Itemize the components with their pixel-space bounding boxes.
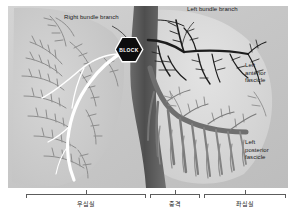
- bracket-tick-right: [199, 194, 200, 198]
- bracket-bar: [204, 194, 286, 195]
- diagram-stage: BLOCK Right bundle branch Left bundle br…: [0, 0, 296, 222]
- bracket-left-ventricle: 좌심실: [204, 190, 286, 200]
- bracket-bar: [150, 194, 200, 195]
- bracket-tick-center: [175, 190, 176, 194]
- bracket-caption: 중격: [150, 199, 200, 208]
- bracket-tick-center: [86, 190, 87, 194]
- label-left-bundle-branch: Left bundle branch: [187, 6, 238, 14]
- bracket-right-ventricle: 우심실: [26, 190, 146, 200]
- label-left-posterior-fascicle: Left posterior fascicle: [245, 139, 269, 162]
- bracket-tick-left: [150, 194, 151, 198]
- bracket-bar: [26, 194, 146, 195]
- bracket-septum: 중격: [150, 190, 200, 200]
- label-right-bundle-branch: Right bundle branch: [64, 14, 119, 22]
- bracket-tick-center: [245, 190, 246, 194]
- label-left-anterior-fascicle: Left anterior fascicle: [245, 62, 266, 85]
- bracket-caption: 좌심실: [204, 199, 286, 208]
- bracket-tick-left: [204, 194, 205, 198]
- bracket-caption: 우심실: [26, 199, 146, 208]
- bracket-tick-right: [285, 194, 286, 198]
- region-brackets: 우심실 중격 좌심실: [8, 190, 288, 220]
- block-badge: BLOCK: [116, 38, 142, 61]
- bracket-tick-left: [26, 194, 27, 198]
- block-badge-label: BLOCK: [119, 47, 138, 53]
- bracket-tick-right: [145, 194, 146, 198]
